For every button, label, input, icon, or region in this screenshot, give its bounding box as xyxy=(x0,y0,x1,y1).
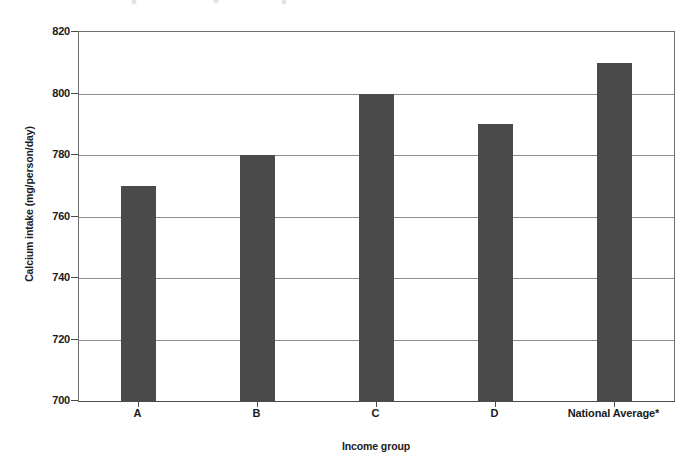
y-tick-mark xyxy=(71,277,78,278)
y-tick-label: 800 xyxy=(30,88,70,99)
y-tick-mark xyxy=(71,400,78,401)
y-axis-tick-marks xyxy=(78,31,79,400)
y-tick-label: 740 xyxy=(30,272,70,283)
bar xyxy=(121,186,156,401)
bar-chart-figure: Calcium intake (mg/person/day) 700720740… xyxy=(0,0,691,473)
y-tick-mark xyxy=(71,216,78,217)
y-tick-label: 700 xyxy=(30,395,70,406)
y-tick-label: 820 xyxy=(30,26,70,37)
y-tick-mark xyxy=(71,154,78,155)
plot-area xyxy=(78,31,675,402)
y-tick-label: 780 xyxy=(30,149,70,160)
bar xyxy=(478,124,513,401)
bar xyxy=(597,63,632,401)
y-tick-mark xyxy=(71,339,78,340)
scan-artifact xyxy=(120,0,420,6)
y-tick-label: 760 xyxy=(30,211,70,222)
y-tick-label: 720 xyxy=(30,334,70,345)
bar xyxy=(359,94,394,402)
y-axis-tick-labels: 700720740760780800820 xyxy=(28,0,70,473)
x-tick-label: National Average* xyxy=(534,406,691,420)
x-axis-title: Income group xyxy=(78,440,674,452)
y-tick-mark xyxy=(71,93,78,94)
bar xyxy=(240,155,275,401)
y-tick-mark xyxy=(71,31,78,32)
x-axis-tick-labels: ABCDNational Average* xyxy=(78,406,674,424)
